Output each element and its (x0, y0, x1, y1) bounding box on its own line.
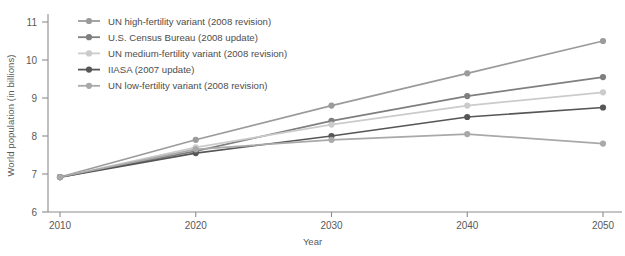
legend-swatch-marker (86, 67, 92, 73)
y-tick-label: 11 (27, 17, 38, 28)
legend-item-label: UN high-fertility variant (2008 revision… (108, 16, 271, 27)
x-tick-label: 2030 (320, 220, 343, 231)
series-data-point (464, 131, 470, 137)
legend-swatch-marker (86, 18, 92, 24)
legend-item-label: IIASA (2007 update) (108, 64, 194, 75)
legend-item[interactable]: UN low-fertility variant (2008 revision) (78, 80, 267, 91)
y-tick-label: 8 (31, 131, 37, 142)
data-series (57, 38, 606, 180)
series-data-point (464, 114, 470, 120)
series-group (57, 38, 606, 180)
series-data-point (600, 141, 606, 147)
x-tick-label: 2020 (185, 220, 208, 231)
series-data-point (193, 137, 199, 143)
series-data-point (600, 104, 606, 110)
legend-item[interactable]: UN high-fertility variant (2008 revision… (78, 16, 271, 27)
y-tick-label: 9 (31, 93, 37, 104)
legend-item-label: U.S. Census Bureau (2008 update) (108, 32, 258, 43)
series-data-point (193, 146, 199, 152)
legend-swatch-marker (86, 50, 92, 56)
series-data-point (57, 174, 63, 180)
series-data-point (600, 74, 606, 80)
series-data-point (600, 38, 606, 44)
legend-item-label: UN low-fertility variant (2008 revision) (108, 80, 267, 91)
series-line (60, 41, 603, 177)
legend-swatch-marker (86, 83, 92, 89)
series-data-point (328, 122, 334, 128)
series-data-point (464, 103, 470, 109)
series-data-point (600, 89, 606, 95)
x-tick-label: 2040 (456, 220, 479, 231)
x-tick-label: 2050 (592, 220, 615, 231)
series-data-point (464, 93, 470, 99)
legend-item-label: UN medium-fertility variant (2008 revisi… (108, 48, 287, 59)
legend-item[interactable]: UN medium-fertility variant (2008 revisi… (78, 48, 287, 59)
plot-area: 67891011 20102020203020402050 UN high-fe… (0, 0, 625, 256)
series-data-point (464, 70, 470, 76)
legend-item[interactable]: IIASA (2007 update) (78, 64, 194, 75)
legend-swatch-marker (86, 34, 92, 40)
y-tick-labels: 67891011 (26, 17, 48, 218)
x-tick-label: 2010 (49, 220, 72, 231)
chart-legend: UN high-fertility variant (2008 revision… (78, 16, 287, 92)
world-population-projection-chart: World population (in billions) Year 6789… (0, 0, 625, 256)
series-data-point (328, 103, 334, 109)
y-tick-label: 6 (31, 207, 37, 218)
y-tick-label: 7 (31, 169, 37, 180)
series-data-point (328, 137, 334, 143)
y-tick-label: 10 (26, 55, 38, 66)
x-tick-labels: 20102020203020402050 (49, 212, 615, 231)
legend-item[interactable]: U.S. Census Bureau (2008 update) (78, 32, 258, 43)
